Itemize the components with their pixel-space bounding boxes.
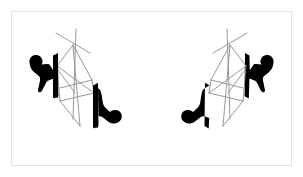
diagram-canvas [0, 0, 303, 177]
figure-root: Stereo pair of mirror-symmetric wirefram… [0, 0, 303, 177]
right-inner-slab [93, 85, 98, 128]
right-outer-slab [53, 55, 58, 98]
